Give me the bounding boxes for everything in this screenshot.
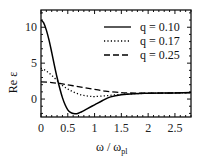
x-tick-label: 1 <box>92 121 98 135</box>
x-tick-label: 1.5 <box>114 121 129 135</box>
x-axis-label: ω / ωpl <box>96 140 127 156</box>
y-tick-label: 0 <box>31 92 37 106</box>
legend-item-q025: q = 0.25 <box>140 48 180 63</box>
legend-item-q017: q = 0.17 <box>140 34 180 49</box>
x-axis-label-main: ω / ω <box>96 140 121 154</box>
x-tick-label: 0 <box>38 121 44 135</box>
x-tick-label: 2.5 <box>167 121 182 135</box>
y-tick-label: 5 <box>31 56 37 70</box>
y-tick-label: 10 <box>25 20 37 34</box>
x-tick-label: 2 <box>145 121 151 135</box>
y-axis-label: Re ε <box>6 63 21 103</box>
series-line-2 <box>41 82 191 93</box>
legend-item-q010: q = 0.10 <box>140 20 180 35</box>
x-axis-label-sub: pl <box>121 147 127 156</box>
x-tick-label: 0.5 <box>60 121 75 135</box>
